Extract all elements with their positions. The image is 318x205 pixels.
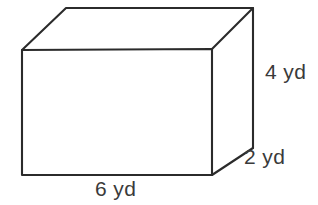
- depth-dimension-label: 2 yd: [244, 146, 285, 167]
- height-dimension-label: 4 yd: [265, 61, 306, 82]
- front-face: [22, 49, 212, 175]
- diagram-canvas: 4 yd 2 yd 6 yd: [0, 0, 318, 205]
- rectangular-prism-drawing: [0, 0, 318, 205]
- width-dimension-label: 6 yd: [95, 178, 136, 199]
